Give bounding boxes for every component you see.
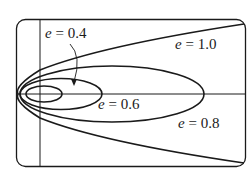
arrow-head-icon xyxy=(71,79,77,86)
label-value: 0.8 xyxy=(201,115,220,131)
label-e10: e = 1.0 xyxy=(175,37,216,52)
conic-diagram xyxy=(0,0,252,171)
label-value: 0.4 xyxy=(68,25,87,41)
label-var: e xyxy=(98,96,105,112)
annotation-arrow xyxy=(70,44,77,82)
label-eq: = xyxy=(185,115,201,131)
label-eq: = xyxy=(105,96,121,112)
label-var: e xyxy=(178,115,185,131)
label-eq: = xyxy=(52,25,68,41)
label-e06: e = 0.6 xyxy=(98,97,139,112)
label-eq: = xyxy=(182,36,198,52)
label-e08: e = 0.8 xyxy=(178,116,219,131)
label-value: 1.0 xyxy=(198,36,217,52)
label-e04: e = 0.4 xyxy=(45,26,86,41)
label-var: e xyxy=(175,36,182,52)
label-value: 0.6 xyxy=(121,96,140,112)
label-var: e xyxy=(45,25,52,41)
